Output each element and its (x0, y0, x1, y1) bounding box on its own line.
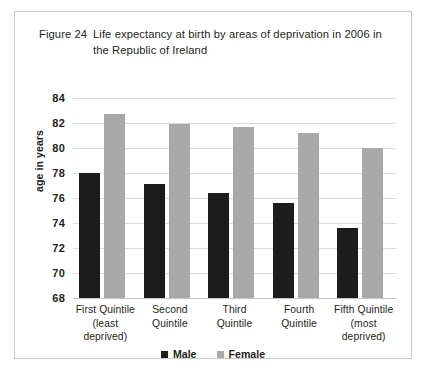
female-swatch-icon (217, 351, 224, 358)
x-axis-ticks: First Quintile(leastdeprived)SecondQuint… (73, 303, 396, 349)
figure-title: Life expectancy at birth by areas of dep… (93, 26, 391, 58)
chart-legend: MaleFemale (15, 348, 411, 360)
y-tick-label: 76 (37, 192, 65, 204)
legend-item-female: Female (217, 348, 266, 360)
legend-label: Male (173, 348, 197, 360)
y-tick-label: 74 (37, 217, 65, 229)
bar-group (331, 98, 396, 298)
gridline (73, 298, 396, 299)
legend-label: Female (229, 348, 266, 360)
y-tick-label: 72 (37, 242, 65, 254)
y-tick-label: 78 (37, 167, 65, 179)
plot-area (73, 98, 396, 298)
y-tick-label: 70 (37, 267, 65, 279)
x-tick-line: (most (321, 317, 406, 331)
legend-item-male: Male (161, 348, 197, 360)
bar-female (362, 148, 383, 298)
bar-male (208, 193, 229, 298)
x-tick-line: deprived) (321, 330, 406, 344)
y-tick-label: 84 (37, 92, 65, 104)
male-swatch-icon (161, 351, 168, 358)
x-tick-line: deprived) (63, 330, 148, 344)
x-tick-line: Fifth Quintile (321, 303, 406, 317)
y-tick-label: 80 (37, 142, 65, 154)
bar-female (233, 127, 254, 298)
bar-male (144, 184, 165, 298)
bar-male (79, 173, 100, 298)
bar-female (169, 124, 190, 298)
y-tick-label: 82 (37, 117, 65, 129)
bar-male (337, 228, 358, 298)
y-tick-label: 68 (37, 292, 65, 304)
bar-male (273, 203, 294, 298)
bar-group (202, 98, 267, 298)
figure-frame: Figure 24 Life expectancy at birth by ar… (14, 11, 412, 359)
x-tick-label: Fifth Quintile(mostdeprived) (321, 303, 406, 344)
figure-number: Figure 24 (39, 26, 93, 42)
bar-group (73, 98, 138, 298)
bar-group (267, 98, 332, 298)
bar-female (298, 133, 319, 298)
y-axis-ticks: 848280787674727068 (35, 98, 65, 298)
bar-female (104, 114, 125, 298)
bar-group (138, 98, 203, 298)
figure-caption: Figure 24 Life expectancy at birth by ar… (39, 26, 391, 58)
